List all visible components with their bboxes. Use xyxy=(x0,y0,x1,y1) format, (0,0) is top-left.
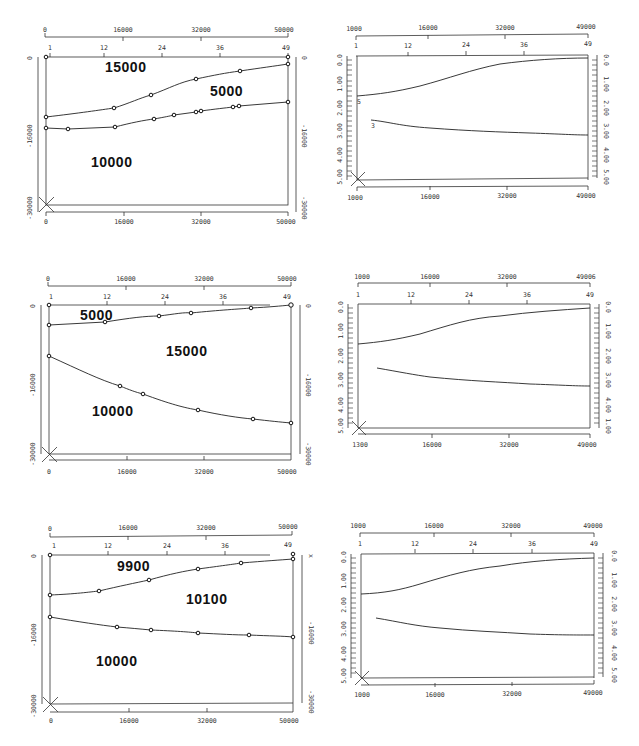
top-tick: 0 xyxy=(46,275,50,283)
panel-2-right: 1000 16000 32000 49006 1 12 24 36 49 130… xyxy=(337,273,612,449)
top-tick: 16000 xyxy=(420,273,440,281)
bottom-tick: 49000 xyxy=(577,441,597,449)
panel-3-right: 1000 16000 32000 49000 1 12 24 36 49 100… xyxy=(340,522,618,699)
top-tick: 49000 xyxy=(583,522,603,530)
y-tick-right: -16000 xyxy=(304,373,312,397)
panel-3-left: 0 16000 32000 50000 1 12 24 36 49 0 1600… xyxy=(30,523,315,725)
top-tick: 32000 xyxy=(501,522,521,530)
index-tick: 1 xyxy=(52,542,56,550)
origin-cross-icon xyxy=(351,172,365,186)
bottom-tick: 16000 xyxy=(420,193,440,201)
index-tick: 49 xyxy=(584,40,592,48)
y-tick: 3.00 xyxy=(336,123,344,139)
bottom-tick: 0 xyxy=(47,468,51,476)
y-tick-right: -16000 xyxy=(307,621,315,645)
figure-canvas: 0 16000 32000 50000 1 12 24 36 49 0 1600… xyxy=(0,0,639,746)
y-tick-right: 0.0 xyxy=(604,301,612,313)
y-tick: 0.0 xyxy=(336,54,344,66)
index-tick: 24 xyxy=(469,540,477,548)
index-tick: 12 xyxy=(103,293,111,301)
top-tick: 32000 xyxy=(191,26,211,34)
bottom-tick: 0 xyxy=(44,218,48,226)
y-tick: 0.0 xyxy=(337,301,345,313)
index-tick: 1 xyxy=(356,291,360,299)
curve-upper-line xyxy=(358,308,590,344)
y-tick-right: -30000 xyxy=(304,442,312,466)
bottom-tick: 49000 xyxy=(576,192,596,200)
y-tick-right: 4.00 xyxy=(604,397,612,413)
y-tick-right: 5.00 xyxy=(610,667,618,683)
panel-2-left: 0 16000 32000 50000 1 12 24 36 49 0 1600… xyxy=(29,275,312,476)
top-tick: 49000 xyxy=(576,23,596,31)
bottom-tick: 1000 xyxy=(354,691,370,699)
index-tick: 49 xyxy=(283,293,291,301)
panel-1-right: 1000 16000 32000 49000 1 12 24 36 49 100… xyxy=(336,23,610,202)
origin-cross-icon xyxy=(43,697,58,712)
bottom-tick: 16000 xyxy=(425,691,445,699)
top-tick: 32000 xyxy=(196,524,216,532)
y-minor-ticks xyxy=(351,558,603,673)
y-tick: -30000 xyxy=(30,694,38,718)
y-tick: -16000 xyxy=(26,124,34,148)
bottom-tick: 16000 xyxy=(114,218,134,226)
y-tick-right: -30000 xyxy=(300,196,308,220)
top-tick: 49006 xyxy=(576,273,596,281)
boundary-upper-line xyxy=(50,559,293,595)
y-tick-right: -30000 xyxy=(307,690,315,714)
y-tick-right: 2.00 xyxy=(610,596,618,612)
top-tick: 1000 xyxy=(354,273,370,281)
y-tick-right: 3.00 xyxy=(604,372,612,388)
y-tick-right: 2.00 xyxy=(604,348,612,364)
y-tick-right: 5.00 xyxy=(602,169,610,185)
region-label: 9900 xyxy=(117,558,150,574)
y-tick: 0 xyxy=(26,56,34,60)
bottom-tick: 32000 xyxy=(194,468,214,476)
panel-1-left: 0 16000 32000 50000 1 12 24 36 49 0 1600… xyxy=(26,26,308,226)
y-minor-ticks xyxy=(348,308,599,423)
y-tick-right: x xyxy=(307,554,315,558)
index-tick: 24 xyxy=(161,293,169,301)
region-label: 15000 xyxy=(166,343,207,359)
top-tick: 32000 xyxy=(495,24,515,32)
y-tick-right: 2.00 xyxy=(602,100,610,116)
y-tick-right: 1.00 xyxy=(602,76,610,92)
y-tick: 2.00 xyxy=(340,597,348,613)
y-tick-right: 4.00 xyxy=(602,147,610,163)
index-tick: 49 xyxy=(590,540,598,548)
y-tick: 0 xyxy=(30,554,38,558)
y-tick: 1.00 xyxy=(336,76,344,92)
y-tick-right: 1.00 xyxy=(610,572,618,588)
data-points xyxy=(48,552,295,639)
y-tick: 5.00 xyxy=(340,668,348,684)
region-label: 5000 xyxy=(210,83,243,99)
y-tick: 4.00 xyxy=(337,397,345,413)
bottom-tick: 32000 xyxy=(197,717,217,725)
region-label: 5000 xyxy=(80,307,113,323)
top-tick: 1000 xyxy=(350,522,366,530)
y-tick: -30000 xyxy=(26,196,34,220)
top-tick: 32000 xyxy=(497,273,517,281)
index-tick: 24 xyxy=(462,41,470,49)
curve-label: 3 xyxy=(371,122,375,130)
bottom-tick: 50000 xyxy=(279,717,299,725)
y-tick: 0.0 xyxy=(340,551,348,563)
y-tick-right: 3.00 xyxy=(602,123,610,139)
boundary-lower-line xyxy=(50,617,293,637)
index-tick: 49 xyxy=(586,291,594,299)
y-tick-right: 1.00 xyxy=(604,418,612,434)
bottom-tick: 1300 xyxy=(352,441,368,449)
bottom-tick: 49000 xyxy=(583,689,603,697)
y-tick: 2.00 xyxy=(336,100,344,116)
y-tick: 1.00 xyxy=(340,573,348,589)
top-tick: 32000 xyxy=(194,275,214,283)
y-tick-right: 4.00 xyxy=(610,645,618,661)
y-tick: 0 xyxy=(29,304,37,308)
top-tick: 16000 xyxy=(118,524,138,532)
origin-cross-icon xyxy=(39,197,54,212)
y-tick-right: 3.00 xyxy=(610,620,618,636)
bottom-tick: 50000 xyxy=(276,218,296,226)
bottom-tick: 16000 xyxy=(422,441,442,449)
top-tick: 0 xyxy=(43,26,47,34)
index-tick: 1 xyxy=(49,293,53,301)
index-tick: 36 xyxy=(523,291,531,299)
